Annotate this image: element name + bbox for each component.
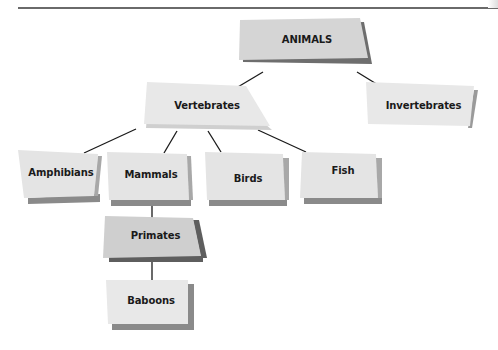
node-label: Amphibians [18, 167, 104, 178]
node-label: Mammals [107, 169, 195, 180]
node-invertebrates[interactable]: Invertebrates [366, 82, 481, 130]
node-label: Vertebrates [142, 100, 272, 111]
node-fish[interactable]: Fish [300, 152, 386, 208]
node-animals[interactable]: ANIMALS [237, 18, 377, 66]
node-label: Primates [103, 230, 208, 241]
node-shape [106, 280, 196, 332]
node-label: Invertebrates [366, 100, 481, 111]
link-vertebrates-birds [208, 131, 221, 152]
node-vertebrates[interactable]: Vertebrates [142, 82, 272, 132]
node-shape [103, 216, 208, 266]
node-label: Birds [205, 173, 291, 184]
node-label: Fish [300, 165, 386, 176]
node-label: ANIMALS [237, 34, 377, 45]
node-birds[interactable]: Birds [205, 152, 291, 208]
node-baboons[interactable]: Baboons [106, 280, 196, 332]
node-mammals[interactable]: Mammals [107, 152, 195, 208]
node-label: Baboons [106, 295, 196, 306]
node-amphibians[interactable]: Amphibians [18, 150, 104, 205]
link-vertebrates-mammals [164, 131, 177, 153]
node-shape [300, 152, 386, 208]
link-vertebrates-fish [258, 130, 306, 152]
node-primates[interactable]: Primates [103, 216, 208, 266]
node-shape [107, 152, 195, 208]
